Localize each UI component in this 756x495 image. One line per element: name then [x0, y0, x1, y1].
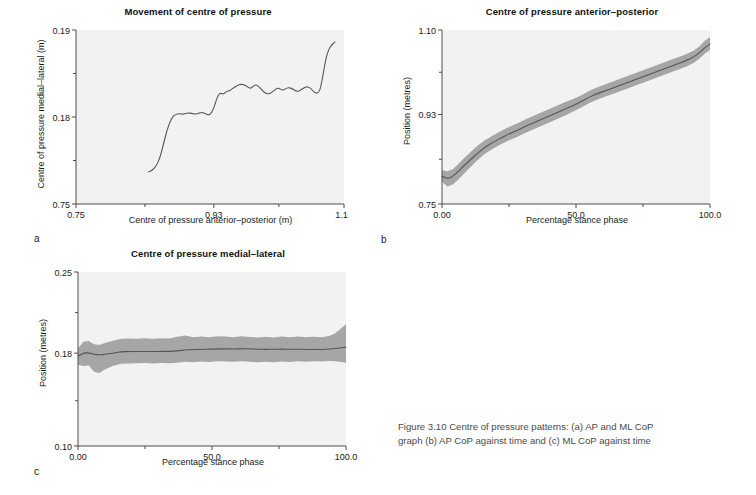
- y-tick-label: 0.18: [52, 113, 70, 123]
- y-tick-label: 1.10: [418, 26, 436, 36]
- y-tick-label: 0.25: [54, 268, 72, 278]
- panel-c-plot: 0.0050.0100.00.100.180.25: [28, 248, 358, 478]
- panel-b: Centre of pressure anterior–posterior 0.…: [392, 6, 722, 236]
- y-tick-label: 0.93: [418, 110, 436, 120]
- y-tick-label: 0.19: [52, 26, 70, 36]
- y-tick-label: 0.75: [52, 200, 70, 210]
- panel-a-plot: 0.750.931.100.750.180.19: [28, 6, 348, 236]
- panel-a: Movement of centre of pressure 0.750.931…: [28, 6, 348, 236]
- plot-area: [76, 30, 344, 204]
- panel-letter-a: a: [34, 233, 40, 244]
- panel-a-xaxis-label: Centre of pressure anterior–posterior (m…: [78, 215, 343, 225]
- figure-caption: Figure 3.10 Centre of pressure patterns:…: [398, 420, 728, 448]
- y-tick-label: 0.75: [418, 200, 436, 210]
- y-tick-label: 0.18: [54, 349, 72, 359]
- caption-line-1: Figure 3.10 Centre of pressure patterns:…: [398, 420, 728, 434]
- plot-area: [442, 30, 710, 204]
- panel-a-yaxis-label: Centre of pressure medial–lateral (m): [36, 24, 46, 204]
- panel-c-yaxis-label: Position (metres): [38, 278, 48, 428]
- panel-c-xaxis-label: Percentage stance phase: [78, 457, 348, 467]
- y-tick-label: 0.10: [54, 442, 72, 452]
- panel-b-xaxis-label: Percentage stance phase: [442, 215, 712, 225]
- panel-b-yaxis-label: Position (metres): [402, 36, 412, 186]
- panel-letter-c: c: [34, 466, 39, 477]
- panel-b-plot: 0.0050.0100.00.750.931.10: [392, 6, 722, 236]
- panel-c: Centre of pressure medial–lateral 0.0050…: [28, 248, 358, 478]
- figure-3-10: Movement of centre of pressure 0.750.931…: [0, 0, 756, 495]
- panel-letter-b: b: [381, 234, 387, 245]
- caption-line-2: graph (b) AP CoP against time and (c) ML…: [398, 434, 728, 448]
